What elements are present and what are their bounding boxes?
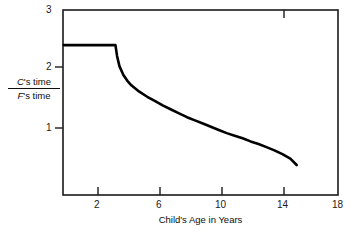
plot-area xyxy=(0,0,357,242)
x-tick-label-6: 6 xyxy=(156,200,162,210)
y-tick-label-2: 2 xyxy=(46,62,52,72)
y-axis-label-denominator-text: 's time xyxy=(23,90,50,101)
y-tick-label-1: 1 xyxy=(46,123,52,133)
y-axis-label-numerator: C's time xyxy=(8,76,60,89)
chart-figure: 3 2 1 2 6 10 14 18 C's time F's time Chi… xyxy=(0,0,357,242)
y-axis-label-denominator: F's time xyxy=(8,89,60,101)
y-axis-label-numerator-text: 's time xyxy=(24,76,51,87)
plot-frame xyxy=(63,10,338,195)
x-tick-label-14: 14 xyxy=(277,200,288,210)
x-tick-label-2: 2 xyxy=(94,200,100,210)
y-axis-label: C's time F's time xyxy=(8,76,60,101)
x-tick-label-10: 10 xyxy=(215,200,226,210)
x-axis-title: Child's Age in Years xyxy=(63,214,338,225)
y-tick-label-3: 3 xyxy=(46,5,52,15)
x-tick-label-18: 18 xyxy=(332,200,343,210)
y-axis-label-numerator-symbol: C xyxy=(17,76,24,87)
